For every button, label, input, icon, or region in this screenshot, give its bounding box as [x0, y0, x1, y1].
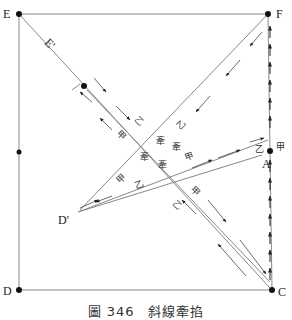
tick-mark — [72, 84, 80, 90]
label-qian-3: 牽 — [140, 151, 149, 162]
point-A — [267, 148, 273, 154]
label-yi-2: 乙 — [174, 118, 187, 131]
label-C: C — [278, 285, 286, 299]
label-jia-1: 甲 — [115, 128, 128, 141]
point-E — [16, 11, 22, 17]
label-jia-3: 甲 — [114, 172, 127, 185]
arrows-EC-strip — [80, 78, 266, 276]
figure-caption: 圖 346 斜線牽掐 — [0, 301, 292, 320]
label-D-prime: D' — [58, 213, 69, 227]
label-qian-2: 牽 — [172, 141, 181, 152]
label-D: D — [3, 284, 12, 298]
point-F — [265, 11, 271, 17]
label-jia-5: 甲 — [276, 142, 285, 152]
diagonal-pull-diagram: E E' F D D' C A 乙 甲 乙 牽 牽 牽 牽 甲 甲 乙 甲 乙 … — [0, 0, 292, 300]
label-yi-5: 乙 — [255, 144, 264, 154]
label-jia-2: 甲 — [183, 151, 195, 163]
label-E-prime: E' — [42, 36, 59, 53]
thread-labels: 乙 甲 乙 牽 牽 牽 牽 甲 甲 乙 甲 乙 乙 甲 — [114, 114, 285, 211]
label-F: F — [276, 7, 283, 21]
label-yi-1: 乙 — [133, 114, 146, 127]
point-D — [16, 287, 22, 293]
point-midline — [81, 83, 87, 89]
arrows-F-diagonal — [196, 32, 262, 112]
label-qian-1: 牽 — [156, 135, 165, 146]
label-jia-4: 甲 — [189, 184, 202, 197]
label-yi-3: 乙 — [133, 179, 145, 191]
label-qian-4: 牽 — [158, 159, 167, 170]
point-ED-mid — [17, 150, 22, 155]
label-A: A — [262, 157, 271, 171]
label-E: E — [3, 7, 10, 21]
point-C — [269, 287, 275, 293]
